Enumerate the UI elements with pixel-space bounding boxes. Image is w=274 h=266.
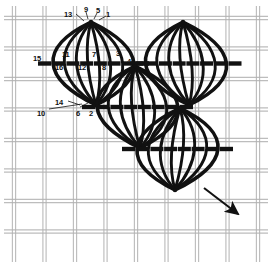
stitch-number-11: 11 — [62, 51, 70, 59]
stitch-apex-point — [178, 106, 182, 110]
stitch-apex-point — [181, 20, 185, 24]
stitch-number-16: 16 — [55, 64, 63, 72]
stitch-number-10: 10 — [37, 110, 45, 118]
stitch-number-13: 13 — [64, 11, 72, 19]
stitch-number-9: 9 — [84, 6, 88, 14]
direction-arrow — [204, 188, 238, 214]
leaf-motif-bottom-right — [122, 106, 233, 192]
stitch-number-14: 14 — [55, 99, 63, 107]
diagram-svg — [0, 0, 274, 266]
direction-arrow-group — [204, 188, 238, 214]
stitch-number-4: 4 — [127, 58, 131, 66]
stitch-diagram-figure: 13951151173161284141062 — [0, 0, 274, 266]
stitch-apex-point — [133, 64, 137, 68]
stitch-number-6: 6 — [76, 110, 80, 118]
stitch-number-3: 3 — [116, 50, 120, 58]
stitch-number-5: 5 — [96, 7, 100, 15]
stitch-apex-point — [89, 20, 93, 24]
stitch-number-2: 2 — [89, 110, 93, 118]
stitch-number-15: 15 — [33, 55, 41, 63]
stitch-number-1: 1 — [106, 11, 110, 19]
stitch-base-point — [173, 188, 177, 192]
stitch-number-8: 8 — [102, 64, 106, 72]
stitch-number-7: 7 — [92, 51, 96, 59]
stitch-number-12: 12 — [78, 64, 86, 72]
leaf-motif-top-right — [131, 20, 242, 107]
